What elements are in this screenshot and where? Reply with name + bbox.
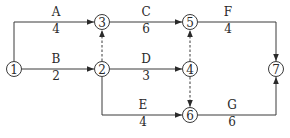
activity-f-arrow: [198, 22, 276, 61]
activity-e-duration: 4: [139, 115, 147, 129]
node-5-label: 5: [186, 16, 194, 30]
node-4: 4: [183, 62, 198, 77]
node-3-label: 3: [98, 16, 106, 30]
activity-e-name: E: [139, 98, 148, 112]
activity-e: E 4: [102, 77, 182, 129]
activity-c: C 6: [110, 5, 182, 36]
activity-c-duration: 6: [142, 22, 150, 36]
node-5: 5: [183, 15, 198, 30]
activity-g-duration: 6: [228, 115, 236, 129]
node-7-label: 7: [272, 63, 280, 77]
node-3: 3: [95, 15, 110, 30]
activity-c-name: C: [141, 5, 150, 19]
activity-g: G 6: [198, 77, 276, 129]
activity-f: F 4: [198, 5, 276, 61]
activity-d: D 3: [110, 52, 182, 83]
activity-b-name: B: [52, 52, 61, 66]
node-1: 1: [7, 62, 22, 77]
activity-g-arrow: [198, 77, 276, 115]
activity-a-name: A: [51, 5, 61, 19]
node-6-label: 6: [186, 109, 194, 123]
activity-g-name: G: [227, 98, 237, 112]
activity-b-duration: 2: [52, 69, 60, 83]
activity-a-duration: 4: [52, 22, 60, 36]
activity-d-name: D: [141, 52, 151, 66]
node-7: 7: [269, 62, 284, 77]
node-1-label: 1: [10, 63, 18, 77]
node-4-label: 4: [186, 63, 194, 77]
node-2: 2: [95, 62, 110, 77]
activity-b: B 2: [22, 52, 94, 83]
node-6: 6: [183, 108, 198, 123]
node-2-label: 2: [98, 63, 106, 77]
activity-f-name: F: [224, 5, 232, 19]
activity-d-duration: 3: [142, 69, 150, 83]
network-diagram: A 4 B 2 C 6 D 3 E 4 F 4 G 6: [0, 0, 290, 138]
activity-f-duration: 4: [224, 22, 232, 36]
